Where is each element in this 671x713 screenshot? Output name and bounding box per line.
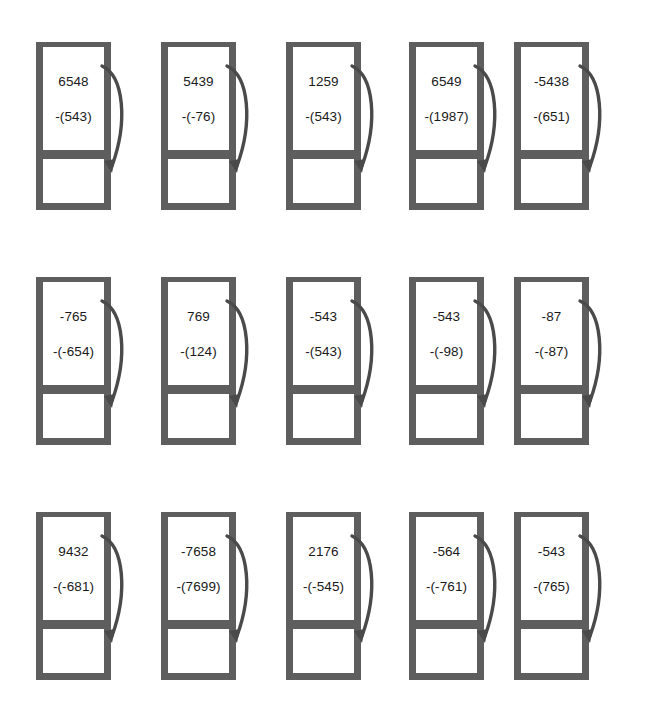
problem-operands-cell: -5438 -(651)	[521, 47, 582, 150]
subtrahend-value: -(543)	[293, 344, 354, 359]
subtrahend-value: -(-761)	[416, 579, 477, 594]
problem-row: 9432 -(-681) -7658 -(7699)	[0, 510, 671, 685]
problem-card[interactable]: 5439 -(-76)	[161, 40, 249, 215]
subtrahend-value: -(-87)	[521, 344, 582, 359]
answer-cell[interactable]	[43, 394, 104, 436]
problem-card[interactable]: 1259 -(543)	[286, 40, 374, 215]
problem-operands-cell: -7658 -(7699)	[168, 517, 229, 620]
regroup-arrow-icon	[223, 530, 257, 658]
operation-divider	[43, 385, 104, 394]
minuend-value: 5439	[168, 74, 229, 89]
problem-card[interactable]: -765 -(-654)	[36, 275, 124, 450]
regroup-arrow-icon	[348, 60, 382, 188]
minuend-value: -87	[521, 309, 582, 324]
problem-card[interactable]: 6549 -(1987)	[409, 40, 497, 215]
problem-card[interactable]: 6548 -(543)	[36, 40, 124, 215]
problem-operands-cell: -87 -(-87)	[521, 282, 582, 385]
problem-card[interactable]: -87 -(-87)	[514, 275, 602, 450]
problem-card[interactable]: -543 -(765)	[514, 510, 602, 685]
problem-row: -765 -(-654) 769 -(124)	[0, 275, 671, 450]
problem-card[interactable]: -543 -(-98)	[409, 275, 497, 450]
subtrahend-value: -(1987)	[416, 109, 477, 124]
answer-cell[interactable]	[521, 159, 582, 201]
subtrahend-value: -(765)	[521, 579, 582, 594]
operation-divider	[293, 620, 354, 629]
problem-card[interactable]: -543 -(543)	[286, 275, 374, 450]
problem-card[interactable]: -7658 -(7699)	[161, 510, 249, 685]
problem-operands-cell: 769 -(124)	[168, 282, 229, 385]
regroup-arrow-icon	[98, 295, 132, 423]
regroup-arrow-icon	[471, 295, 505, 423]
minuend-value: -7658	[168, 544, 229, 559]
minuend-value: 769	[168, 309, 229, 324]
minuend-value: 6549	[416, 74, 477, 89]
problem-operands-cell: 6549 -(1987)	[416, 47, 477, 150]
answer-cell[interactable]	[293, 394, 354, 436]
subtrahend-value: -(543)	[293, 109, 354, 124]
subtrahend-value: -(-681)	[43, 579, 104, 594]
problem-card[interactable]: -564 -(-761)	[409, 510, 497, 685]
subtrahend-value: -(124)	[168, 344, 229, 359]
problem-operands-cell: 2176 -(-545)	[293, 517, 354, 620]
operation-divider	[521, 385, 582, 394]
subtrahend-value: -(-76)	[168, 109, 229, 124]
regroup-arrow-icon	[348, 295, 382, 423]
answer-cell[interactable]	[293, 629, 354, 671]
regroup-arrow-icon	[576, 530, 610, 658]
operation-divider	[293, 150, 354, 159]
subtraction-worksheet: 6548 -(543) 5439 -(-76)	[0, 0, 671, 713]
answer-cell[interactable]	[521, 394, 582, 436]
regroup-arrow-icon	[576, 295, 610, 423]
answer-cell[interactable]	[293, 159, 354, 201]
answer-cell[interactable]	[168, 159, 229, 201]
operation-divider	[416, 620, 477, 629]
problem-operands-cell: -543 -(543)	[293, 282, 354, 385]
subtrahend-value: -(-98)	[416, 344, 477, 359]
problem-card[interactable]: 9432 -(-681)	[36, 510, 124, 685]
minuend-value: 1259	[293, 74, 354, 89]
problem-card[interactable]: 2176 -(-545)	[286, 510, 374, 685]
minuend-value: -765	[43, 309, 104, 324]
subtrahend-value: -(543)	[43, 109, 104, 124]
regroup-arrow-icon	[471, 530, 505, 658]
problem-operands-cell: -543 -(-98)	[416, 282, 477, 385]
answer-cell[interactable]	[521, 629, 582, 671]
operation-divider	[43, 150, 104, 159]
subtrahend-value: -(651)	[521, 109, 582, 124]
problem-operands-cell: 6548 -(543)	[43, 47, 104, 150]
problem-card[interactable]: 769 -(124)	[161, 275, 249, 450]
regroup-arrow-icon	[471, 60, 505, 188]
regroup-arrow-icon	[98, 60, 132, 188]
problem-card[interactable]: -5438 -(651)	[514, 40, 602, 215]
operation-divider	[168, 620, 229, 629]
operation-divider	[416, 150, 477, 159]
answer-cell[interactable]	[43, 159, 104, 201]
operation-divider	[416, 385, 477, 394]
problem-operands-cell: -765 -(-654)	[43, 282, 104, 385]
problem-operands-cell: -564 -(-761)	[416, 517, 477, 620]
problem-operands-cell: 9432 -(-681)	[43, 517, 104, 620]
problem-row: 6548 -(543) 5439 -(-76)	[0, 40, 671, 215]
operation-divider	[43, 620, 104, 629]
minuend-value: 2176	[293, 544, 354, 559]
regroup-arrow-icon	[576, 60, 610, 188]
minuend-value: -543	[293, 309, 354, 324]
problem-operands-cell: -543 -(765)	[521, 517, 582, 620]
answer-cell[interactable]	[43, 629, 104, 671]
operation-divider	[168, 385, 229, 394]
answer-cell[interactable]	[168, 394, 229, 436]
minuend-value: 6548	[43, 74, 104, 89]
minuend-value: -543	[416, 309, 477, 324]
regroup-arrow-icon	[98, 530, 132, 658]
regroup-arrow-icon	[223, 295, 257, 423]
answer-cell[interactable]	[416, 629, 477, 671]
problem-operands-cell: 5439 -(-76)	[168, 47, 229, 150]
answer-cell[interactable]	[416, 159, 477, 201]
answer-cell[interactable]	[416, 394, 477, 436]
answer-cell[interactable]	[168, 629, 229, 671]
minuend-value: -543	[521, 544, 582, 559]
watermark-text	[567, 4, 663, 26]
minuend-value: 9432	[43, 544, 104, 559]
subtrahend-value: -(-654)	[43, 344, 104, 359]
operation-divider	[521, 620, 582, 629]
